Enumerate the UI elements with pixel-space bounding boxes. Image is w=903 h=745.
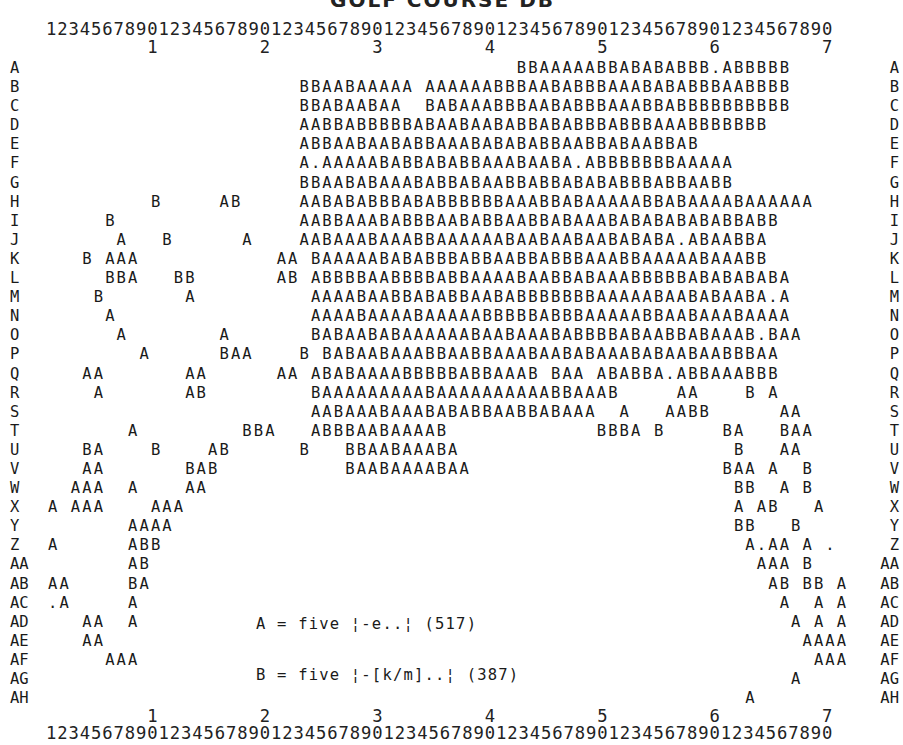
row-label-right: T xyxy=(869,422,899,441)
row-cells: A AAA AAA A AB A xyxy=(48,498,825,517)
row-cells: ABBAABAABABBAAABABABABBAABBABAABBAB xyxy=(48,135,700,154)
row-cells: AABBABBBBBABAABAABABBABABBBABBBAAABBBBBB… xyxy=(48,116,768,135)
row-label-left: AG xyxy=(10,670,29,689)
row-cells: BBA BB AB ABBBBAABBBBABBAAAABAABBABAAABB… xyxy=(48,269,791,288)
row-label-right: J xyxy=(869,231,899,250)
row-cells: AAA A AA BB A B xyxy=(48,479,814,498)
row-label-right: Z xyxy=(869,536,899,555)
row-label-left: Z xyxy=(10,536,19,555)
row-label-right: I xyxy=(869,212,899,231)
row-label-right: AA xyxy=(869,555,899,574)
row-label-left: O xyxy=(10,326,19,345)
row-label-right: AG xyxy=(869,670,899,689)
row-label-left: H xyxy=(10,193,19,212)
row-label-left: AA xyxy=(10,555,29,574)
ruler-top-units: 1234567890123456789012345678901234567890… xyxy=(46,20,833,38)
row-cells: BBAAAAABBABABABBB.ABBBBB xyxy=(48,59,791,78)
row-label-left: N xyxy=(10,307,19,326)
row-label-right: U xyxy=(869,441,899,460)
row-cells: A BBA ABBBAABAAAAB BBBA B BA BAA xyxy=(48,422,814,441)
row-label-left: K xyxy=(10,250,19,269)
row-label-right: V xyxy=(869,460,899,479)
row-label-right: AH xyxy=(869,689,899,708)
row-label-left: U xyxy=(10,441,19,460)
row-label-left: T xyxy=(10,422,19,441)
row-cells: AA AA AA ABABAAAABBBBBABBAAAB BAA ABABBA… xyxy=(48,365,780,384)
row-label-left: S xyxy=(10,403,19,422)
row-cells: AB AAA B xyxy=(48,555,814,574)
row-label-left: Y xyxy=(10,517,19,536)
row-label-left: G xyxy=(10,174,19,193)
row-label-right: C xyxy=(869,97,899,116)
row-label-right: B xyxy=(869,78,899,97)
row-label-left: E xyxy=(10,135,19,154)
row-label-left: I xyxy=(10,212,19,231)
legend-line-a: A = five ¦-e..¦ (517) xyxy=(256,616,519,633)
row-cells: BBABAABAA BABAAABBBAABABBBAAABBABBBBBBBB… xyxy=(48,97,791,116)
row-cells: A.AAAAABABBABABBAAABAABA.ABBBBBBBAAAAA xyxy=(48,154,734,173)
row-cells: B AABBAAABABBBAABABBAABBABAAABABABABABAB… xyxy=(48,212,780,231)
row-label-left: P xyxy=(10,345,19,364)
row-label-left: V xyxy=(10,460,19,479)
ruler-top-tens: 1 2 3 4 5 6 7 xyxy=(46,38,833,56)
row-label-right: AC xyxy=(869,594,899,613)
row-cells: B A AAAABAABBABABBAABABBBBBBBAAAAABAABAB… xyxy=(48,288,791,307)
row-label-left: AE xyxy=(10,632,29,651)
row-label-left: J xyxy=(10,231,19,250)
row-label-right: D xyxy=(869,116,899,135)
row-cells: B AB AABABABBBABABBBBBBAAABBABAAAAABBABA… xyxy=(48,193,814,212)
row-label-right: E xyxy=(869,135,899,154)
row-label-right: AF xyxy=(869,651,899,670)
row-label-left: W xyxy=(10,479,19,498)
row-label-right: L xyxy=(869,269,899,288)
row-label-left: AH xyxy=(10,689,29,708)
row-label-left: AD xyxy=(10,613,29,632)
row-label-right: G xyxy=(869,174,899,193)
row-label-right: X xyxy=(869,498,899,517)
row-label-right: H xyxy=(869,193,899,212)
row-label-left: C xyxy=(10,97,19,116)
row-label-right: Y xyxy=(869,517,899,536)
row-label-right: AE xyxy=(869,632,899,651)
row-label-right: S xyxy=(869,403,899,422)
row-label-right: M xyxy=(869,288,899,307)
row-label-left: A xyxy=(10,59,19,78)
row-cells: A B A AABAAABAAABBAAAAAABAABAABAABABABA.… xyxy=(48,231,768,250)
row-label-right: AD xyxy=(869,613,899,632)
legend: A = five ¦-e..¦ (517) B = five ¦-[k/m]..… xyxy=(256,582,519,701)
row-label-right: A xyxy=(869,59,899,78)
row-label-left: AB xyxy=(10,575,29,594)
row-label-right: Q xyxy=(869,365,899,384)
row-cells: A AB BAAAAAAAAABAAAAAAAAAABBAAAB AA B A xyxy=(48,384,780,403)
row-label-left: B xyxy=(10,78,19,97)
title-partial: GOLF COURSE DB xyxy=(330,0,555,12)
row-label-right: P xyxy=(869,345,899,364)
row-label-left: AF xyxy=(10,651,29,670)
row-label-right: K xyxy=(869,250,899,269)
row-cells: A AAAABAAAABAAAAABBBBBABBBAAAAABBAABAAAB… xyxy=(48,307,791,326)
row-cells: A ABB A.AA A . xyxy=(48,536,837,555)
row-label-left: F xyxy=(10,154,19,173)
row-label-right: W xyxy=(869,479,899,498)
row-label-left: R xyxy=(10,384,19,403)
row-cells: BA B AB B BBAABAAABA B AA xyxy=(48,441,803,460)
legend-line-b: B = five ¦-[k/m]..¦ (387) xyxy=(256,667,519,684)
row-label-left: AC xyxy=(10,594,29,613)
row-cells: BBAABABAAABABBABAABBABBABABABBBABBAABB xyxy=(48,174,734,193)
row-cells: A BAA B BABAABAAABBAABBAAABAABABAAABABAA… xyxy=(48,345,780,364)
row-label-left: Q xyxy=(10,365,19,384)
row-cells: BBAABAAAAA AAAAAABBBAABABBBAAABABABBBAAB… xyxy=(48,78,791,97)
row-label-right: F xyxy=(869,154,899,173)
ruler-bottom-units: 1234567890123456789012345678901234567890… xyxy=(46,724,833,742)
row-label-right: R xyxy=(869,384,899,403)
row-cells: AAAA BB B xyxy=(48,517,803,536)
row-label-left: M xyxy=(10,288,19,307)
row-label-left: L xyxy=(10,269,19,288)
row-cells: A A BABAABABAAAAAABAABAAABABBBBABAABBABA… xyxy=(48,326,803,345)
row-label-right: N xyxy=(869,307,899,326)
row-label-left: X xyxy=(10,498,19,517)
row-cells: B AAA AA BAAAAABABABBBABBAABBABBBAAABBAA… xyxy=(48,250,768,269)
row-label-right: AB xyxy=(869,575,899,594)
row-cells: AA BAB BAABAAAABAA BAA A B xyxy=(48,460,814,479)
row-cells: AABAAABAAABABABBAABBABAAA A AABB AA xyxy=(48,403,803,422)
